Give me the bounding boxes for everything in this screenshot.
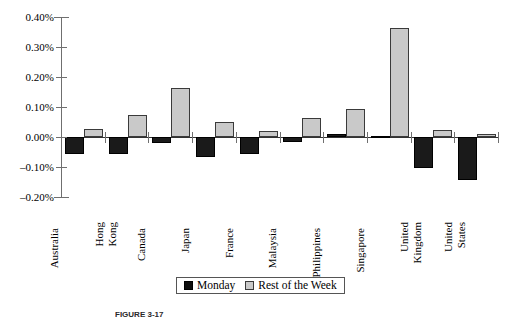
figure-caption-text: FIGURE 3-17 [115, 310, 455, 319]
monday-swatch-icon [184, 281, 193, 290]
bar-rest-of-the-week [171, 88, 190, 137]
x-axis-tick-mark [236, 132, 237, 143]
bar-monday [196, 137, 215, 157]
x-axis-label-text: Singapore [355, 228, 369, 298]
x-axis-tick-mark [192, 132, 193, 143]
bar-rest-of-the-week [128, 115, 147, 137]
y-axis-tick-mark [56, 137, 67, 138]
y-axis-tick-label: 0.00% [0, 132, 54, 143]
bar-rest-of-the-week [346, 109, 365, 137]
x-axis-tick-mark [105, 132, 106, 143]
bar-rest-of-the-week [390, 28, 409, 138]
y-axis-tick-label: 0.10% [0, 102, 54, 113]
y-axis-tick-mark [56, 167, 67, 168]
bar-monday [152, 137, 171, 143]
x-axis-tick-mark [454, 132, 455, 143]
bar-rest-of-the-week [433, 130, 452, 137]
x-axis-label-line: Canada [136, 228, 147, 298]
bar-monday [371, 136, 390, 138]
y-axis-tick-mark [56, 107, 67, 108]
y-axis-tick-label: 0.20% [0, 72, 54, 83]
x-axis-label-line: United [398, 222, 411, 292]
bar-monday [458, 137, 477, 180]
x-axis-tick-mark [148, 132, 149, 143]
bar-monday [109, 137, 128, 154]
x-axis-label-line: Kong [106, 222, 119, 292]
x-axis-category-labels: AustraliaHongKongCanadaJapanFranceMalays… [62, 200, 499, 270]
figure-container: 0.40%0.30%0.20%0.10%0.00%–0.10%–0.20% Au… [0, 0, 505, 319]
legend-item-rest-of-the-week[interactable]: Rest of the Week [245, 280, 336, 291]
x-axis-label-line: Hong [93, 222, 106, 292]
x-axis-label-line: United [442, 222, 455, 292]
bar-monday [240, 137, 259, 154]
bar-rest-of-the-week [302, 118, 321, 138]
y-axis-tick-mark [56, 77, 67, 78]
y-axis-tick-label: –0.10% [0, 162, 54, 173]
y-axis-tick-labels: 0.40%0.30%0.20%0.10%0.00%–0.10%–0.20% [0, 0, 54, 210]
bar-monday [283, 137, 302, 142]
x-axis-label-text: Australia [49, 228, 63, 298]
x-axis-tick-mark [323, 132, 324, 143]
bar-monday [65, 137, 84, 154]
bar-monday [327, 134, 346, 137]
legend-label: Rest of the Week [258, 280, 336, 291]
x-axis-label-line: Kingdom [411, 222, 424, 292]
y-axis-tick-label: –0.20% [0, 192, 54, 203]
x-axis-label-united-states: UnitedStates [442, 200, 505, 270]
plot-area [62, 17, 499, 197]
x-axis-tick-mark [367, 132, 368, 143]
bar-rest-of-the-week [215, 122, 234, 137]
x-axis-label-line: States [455, 222, 468, 292]
x-axis-label-line: Australia [49, 228, 60, 298]
x-axis-label-text: UnitedKingdom [398, 222, 424, 292]
bar-rest-of-the-week [477, 134, 496, 137]
x-axis-tick-mark [280, 132, 281, 143]
bar-rest-of-the-week [84, 129, 103, 137]
figure-caption: FIGURE 3-17 [115, 310, 455, 319]
zero-baseline [62, 137, 499, 138]
x-axis-label-text: Canada [136, 228, 150, 298]
x-axis-tick-mark [411, 132, 412, 143]
bar-rest-of-the-week [259, 131, 278, 137]
chart-legend: MondayRest of the Week [176, 277, 345, 294]
y-axis-tick-mark [54, 197, 69, 198]
y-axis-tick-label: 0.30% [0, 42, 54, 53]
x-axis-label-line: Singapore [355, 228, 366, 298]
bar-monday [414, 137, 433, 168]
y-axis-tick-label: 0.40% [0, 12, 54, 23]
rest-of-week-swatch-icon [245, 281, 254, 290]
y-axis-tick-mark [56, 47, 67, 48]
legend-item-monday[interactable]: Monday [184, 280, 235, 291]
x-axis-label-text: HongKong [93, 222, 119, 292]
x-axis-tick-mark [498, 132, 499, 143]
x-axis-label-text: UnitedStates [442, 222, 468, 292]
legend-label: Monday [197, 280, 235, 291]
y-axis-tick-mark [54, 17, 69, 18]
